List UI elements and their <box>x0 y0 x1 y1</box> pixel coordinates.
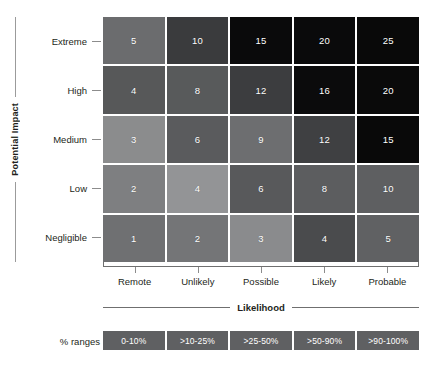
risk-cell[interactable]: 20 <box>294 17 356 64</box>
risk-cell-value: 4 <box>131 85 136 96</box>
risk-cell-value: 8 <box>195 85 200 96</box>
risk-cell[interactable]: 25 <box>357 17 419 64</box>
y-axis-tick-labels: ExtremeHighMediumLowNegligible <box>26 17 103 262</box>
y-axis-title-block: Potential Impact <box>6 17 24 262</box>
legend-swatch-label: >25-50% <box>244 336 279 346</box>
legend-swatch[interactable]: >50-90% <box>294 331 356 350</box>
risk-cell[interactable]: 15 <box>230 17 292 64</box>
y-axis-tick-label-text: High <box>67 85 87 96</box>
risk-cell-value: 2 <box>195 233 200 244</box>
risk-cell-value: 3 <box>258 233 263 244</box>
risk-cell-value: 15 <box>383 134 394 145</box>
y-axis-tick-label: High <box>67 66 103 115</box>
risk-cell-value: 10 <box>192 35 203 46</box>
x-axis-title-rule-right <box>292 307 419 308</box>
risk-cell[interactable]: 5 <box>357 215 419 262</box>
risk-cell-value: 10 <box>383 183 394 194</box>
legend-swatch-label: >10-25% <box>180 336 215 346</box>
x-axis-tick-label: Likely <box>293 274 356 288</box>
risk-matrix-grid: 51015202548121620369121524681012345 <box>103 17 419 262</box>
x-axis-tick-labels: RemoteUnlikelyPossibleLikelyProbable <box>103 274 419 288</box>
risk-cell[interactable]: 8 <box>294 165 356 212</box>
risk-cell-value: 8 <box>322 183 327 194</box>
x-axis-tick-label: Possible <box>229 274 292 288</box>
legend-swatch[interactable]: >90-100% <box>357 331 419 350</box>
risk-cell[interactable]: 3 <box>103 116 165 163</box>
risk-cell-value: 25 <box>383 35 394 46</box>
risk-cell-value: 15 <box>256 35 267 46</box>
risk-cell[interactable]: 15 <box>357 116 419 163</box>
risk-cell-value: 3 <box>131 134 136 145</box>
risk-cell[interactable]: 2 <box>103 165 165 212</box>
risk-cell[interactable]: 4 <box>103 66 165 113</box>
risk-cell[interactable]: 16 <box>294 66 356 113</box>
risk-cell-value: 12 <box>256 85 267 96</box>
legend-swatch-label: >90-100% <box>368 336 408 346</box>
x-axis-tick-mark <box>261 267 262 273</box>
x-axis-tick-label: Unlikely <box>166 274 229 288</box>
risk-cell[interactable]: 20 <box>357 66 419 113</box>
risk-cell[interactable]: 9 <box>230 116 292 163</box>
risk-cell-value: 12 <box>319 134 330 145</box>
risk-cell-value: 20 <box>319 35 330 46</box>
risk-cell[interactable]: 6 <box>230 165 292 212</box>
y-axis-tick-mark <box>92 41 101 42</box>
x-axis-tick-mark <box>324 267 325 273</box>
risk-cell-value: 6 <box>258 183 263 194</box>
y-axis-tick-mark <box>92 139 101 140</box>
x-axis-tick-mark <box>387 267 388 273</box>
x-axis-tick-label: Remote <box>103 274 166 288</box>
risk-cell[interactable]: 12 <box>294 116 356 163</box>
y-axis-tick-label-text: Medium <box>53 134 87 145</box>
legend-swatch-label: 0-10% <box>121 336 146 346</box>
legend-label: % ranges <box>30 333 100 349</box>
risk-cell[interactable]: 1 <box>103 215 165 262</box>
y-axis-tick-mark <box>92 188 101 189</box>
risk-cell[interactable]: 6 <box>167 116 229 163</box>
y-axis-tick-label: Low <box>70 164 103 213</box>
x-axis-ticks <box>103 267 419 273</box>
y-axis-tick-mark <box>92 237 101 238</box>
risk-cell[interactable]: 4 <box>294 215 356 262</box>
x-axis-title-rule-left <box>103 307 230 308</box>
risk-cell[interactable]: 2 <box>167 215 229 262</box>
x-axis-tick-mark <box>135 267 136 273</box>
legend: 0-10%>10-25%>25-50%>50-90%>90-100% <box>103 331 419 350</box>
risk-cell-value: 5 <box>385 233 390 244</box>
risk-matrix-chart: Potential Impact ExtremeHighMediumLowNeg… <box>0 0 435 370</box>
x-axis-tick-label: Probable <box>356 274 419 288</box>
risk-cell[interactable]: 10 <box>357 165 419 212</box>
risk-cell-value: 5 <box>131 35 136 46</box>
risk-cell-value: 4 <box>195 183 200 194</box>
legend-swatch-label: >50-90% <box>307 336 342 346</box>
risk-cell[interactable]: 5 <box>103 17 165 64</box>
y-axis-tick-label: Negligible <box>45 213 103 262</box>
risk-cell-value: 16 <box>319 85 330 96</box>
x-axis-title: Likelihood <box>230 302 292 313</box>
risk-cell-value: 9 <box>258 134 263 145</box>
y-axis-tick-label-text: Low <box>70 183 87 194</box>
y-axis-tick-label-text: Extreme <box>52 36 87 47</box>
risk-cell[interactable]: 8 <box>167 66 229 113</box>
y-axis-tick-label-text: Negligible <box>45 232 87 243</box>
y-axis-tick-mark <box>92 90 101 91</box>
y-axis-title-rule-top <box>15 17 16 97</box>
risk-cell-value: 4 <box>322 233 327 244</box>
y-axis-tick-label: Medium <box>53 115 103 164</box>
legend-swatch[interactable]: >10-25% <box>167 331 229 350</box>
risk-cell-value: 6 <box>195 134 200 145</box>
legend-swatch[interactable]: >25-50% <box>230 331 292 350</box>
y-axis-tick-label: Extreme <box>52 17 103 66</box>
risk-cell[interactable]: 12 <box>230 66 292 113</box>
legend-swatch[interactable]: 0-10% <box>103 331 165 350</box>
risk-cell[interactable]: 10 <box>167 17 229 64</box>
y-axis-title: Potential Impact <box>10 97 20 182</box>
risk-cell-value: 1 <box>131 233 136 244</box>
y-axis-title-rule-bottom <box>15 182 16 262</box>
risk-cell-value: 20 <box>383 85 394 96</box>
risk-cell[interactable]: 3 <box>230 215 292 262</box>
risk-cell[interactable]: 4 <box>167 165 229 212</box>
risk-cell-value: 2 <box>131 183 136 194</box>
x-axis-title-block: Likelihood <box>103 300 419 314</box>
x-axis-tick-mark <box>198 267 199 273</box>
